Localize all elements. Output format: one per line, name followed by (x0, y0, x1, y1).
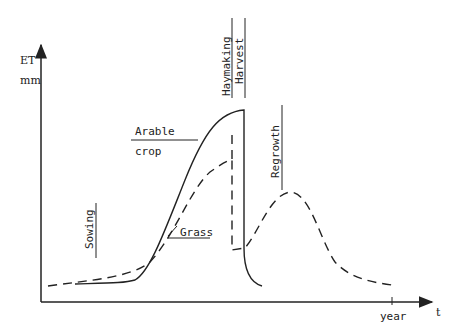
grass-leader-line (168, 226, 177, 236)
year-tick-label: year (380, 310, 407, 323)
grass-label: Grass (180, 226, 213, 239)
regrowth-label: Regrowth (269, 125, 282, 178)
y-axis-label-mm: mm (20, 74, 41, 87)
et-diagram: ET mm t year Sowing Arable crop Grass Ha… (0, 0, 455, 334)
y-axis-label-et: ET (20, 54, 36, 67)
harvest-label: Harvest (233, 38, 246, 84)
arable-label-line1: Arable (135, 125, 175, 138)
grass-curve (48, 160, 392, 286)
arable-label-line2: crop (135, 145, 162, 158)
sowing-label: Sowing (83, 209, 96, 249)
x-axis-label: t (436, 306, 441, 319)
haymaking-label: Haymaking (220, 36, 233, 96)
